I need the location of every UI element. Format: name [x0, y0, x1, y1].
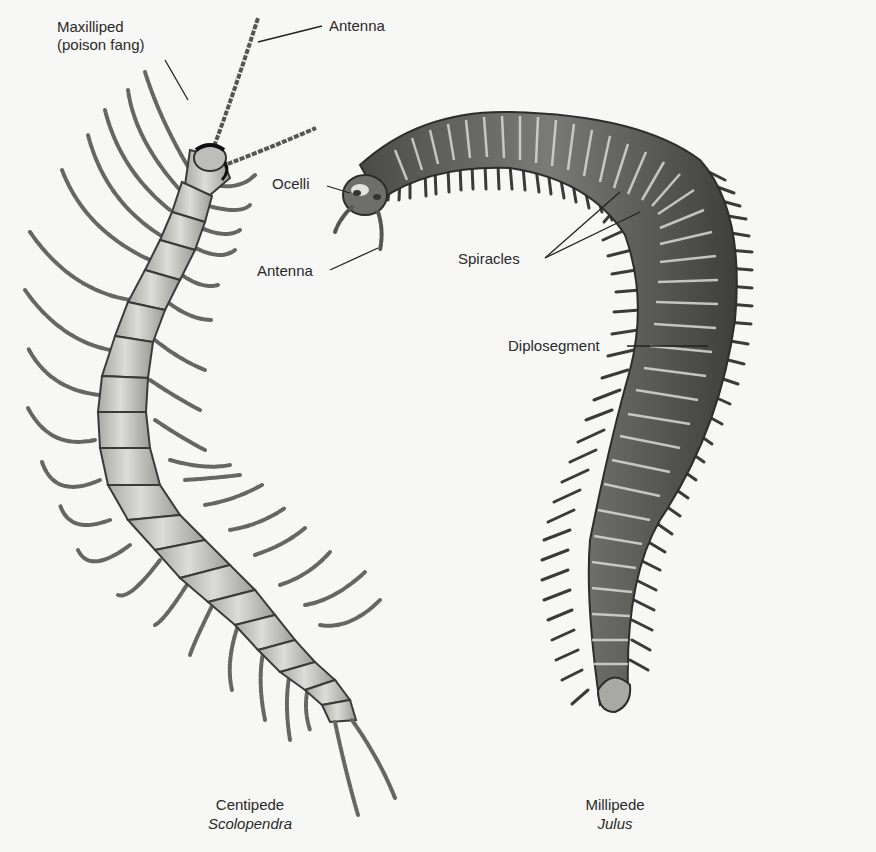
caption-centipede-scientific: Scolopendra — [195, 814, 305, 833]
millipede-drawing — [335, 112, 752, 712]
label-maxilliped-line2: (poison fang) — [57, 36, 145, 53]
caption-millipede-scientific: Julus — [565, 814, 665, 833]
label-ocelli: Ocelli — [272, 175, 310, 193]
label-centipede-antenna: Antenna — [329, 17, 385, 35]
illustration — [0, 0, 876, 852]
label-millipede-antenna: Antenna — [257, 262, 313, 280]
label-spiracles: Spiracles — [458, 250, 520, 268]
label-diplosegment: Diplosegment — [508, 337, 600, 355]
figure-canvas: Maxilliped (poison fang) Antenna Ocelli … — [0, 0, 876, 852]
label-maxilliped: Maxilliped (poison fang) — [57, 18, 145, 54]
caption-centipede: Centipede Scolopendra — [195, 795, 305, 833]
caption-centipede-common: Centipede — [195, 795, 305, 814]
caption-millipede: Millipede Julus — [565, 795, 665, 833]
centipede-drawing — [25, 18, 395, 815]
caption-millipede-common: Millipede — [565, 795, 665, 814]
label-maxilliped-line1: Maxilliped — [57, 18, 124, 35]
